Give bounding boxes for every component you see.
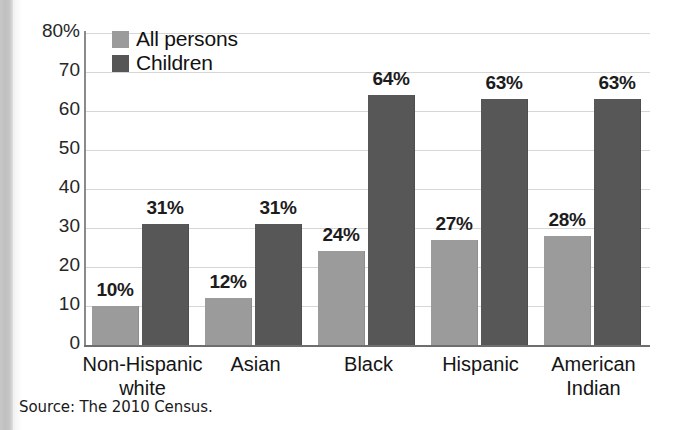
bar-value-label: 31% [243, 197, 313, 219]
bar-value-label: 64% [356, 68, 426, 90]
category-label-line: Indian [519, 376, 668, 400]
legend-swatch-icon-all-persons [112, 31, 129, 48]
bar-asian-all-persons [205, 298, 252, 345]
bar-value-label: 63% [582, 72, 652, 94]
y-tick-label-10: 10 [0, 293, 80, 315]
legend-item-children: Children [112, 51, 238, 75]
grouped-bar-chart: 80%706050403020100 10%31%12%31%24%64%27%… [0, 0, 687, 430]
y-tick-label-40: 40 [0, 176, 80, 198]
bar-value-label: 10% [80, 279, 150, 301]
bar-black-children [368, 95, 415, 345]
y-tick-label-30: 30 [0, 215, 80, 237]
legend-item-all-persons: All persons [112, 27, 238, 51]
chart-page: 80%706050403020100 10%31%12%31%24%64%27%… [0, 0, 687, 430]
bar-non-hispanic-white-children [142, 224, 189, 345]
y-tick-label-70: 70 [0, 59, 80, 81]
bar-american-indian-children [594, 99, 641, 345]
bar-value-label: 24% [306, 224, 376, 246]
category-label-american-indian: AmericanIndian [519, 352, 668, 400]
bar-value-label: 28% [532, 209, 602, 231]
bar-value-label: 31% [130, 197, 200, 219]
chart-legend: All persons Children [112, 27, 238, 75]
y-tick-label-0: 0 [0, 332, 80, 354]
bar-asian-children [255, 224, 302, 345]
legend-label-children: Children [136, 51, 213, 75]
y-tick-label-60: 60 [0, 98, 80, 120]
bar-value-label: 63% [469, 72, 539, 94]
legend-label-all-persons: All persons [136, 27, 238, 51]
bar-value-label: 12% [193, 271, 263, 293]
bar-non-hispanic-white-all-persons [92, 306, 139, 345]
x-axis-line [84, 345, 650, 347]
category-label-line: white [68, 376, 217, 400]
bar-american-indian-all-persons [544, 236, 591, 345]
category-label-line: American [519, 352, 668, 376]
legend-swatch-icon-children [112, 55, 129, 72]
y-tick-label-50: 50 [0, 137, 80, 159]
y-tick-label-20: 20 [0, 254, 80, 276]
source-caption: Source: The 2010 Census. [19, 398, 213, 416]
bar-value-label: 27% [419, 213, 489, 235]
y-tick-label-80pct: 80% [0, 20, 80, 42]
bar-hispanic-children [481, 99, 528, 345]
bar-black-all-persons [318, 251, 365, 345]
bar-hispanic-all-persons [431, 240, 478, 345]
